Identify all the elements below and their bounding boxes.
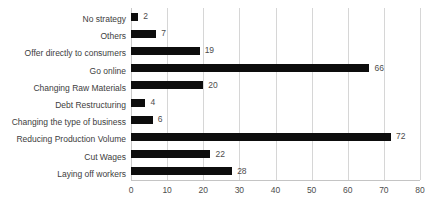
x-tick-label-0: 0 [129,183,134,197]
bar [131,30,156,38]
category-label-row: Changing the type of business [0,111,126,128]
category-label: Others [100,31,126,41]
x-tick-label-40: 40 [271,183,280,197]
bar-row: 19 [131,42,420,59]
category-label-row: Reducing Production Volume [0,128,126,145]
bar-row: 2 [131,8,420,25]
bar [131,133,391,141]
bar-value-label: 72 [396,129,405,143]
x-tick-label-10: 10 [162,183,171,197]
bar-row: 7 [131,25,420,42]
x-tick-label-80: 80 [415,183,424,197]
x-tick-label-20: 20 [199,183,208,197]
x-tick-label-30: 30 [235,183,244,197]
bar [131,150,210,158]
category-label-row: Debt Restructuring [0,94,126,111]
bar-value-label: 28 [237,164,246,178]
bar-value-label: 22 [215,147,224,161]
category-label: Debt Restructuring [55,100,126,110]
category-label: Laying off workers [57,169,126,179]
plot-area: 2719662046722228 [131,8,420,180]
bar-row: 4 [131,94,420,111]
category-axis-labels: No strategyOthersOffer directly to consu… [0,8,126,180]
bar-row: 6 [131,111,420,128]
category-label-row: Offer directly to consumers [0,42,126,59]
bar-row: 20 [131,77,420,94]
category-label: Offer directly to consumers [25,48,126,58]
category-label-row: Go online [0,60,126,77]
bar-row: 66 [131,60,420,77]
gridline-80 [420,8,421,180]
category-label: Reducing Production Volume [16,134,126,144]
category-label: Go online [90,66,126,76]
bar-value-label: 66 [374,61,383,75]
bar [131,116,153,124]
bar [131,47,200,55]
bar [131,64,369,72]
bar [131,167,232,175]
bar-value-label: 20 [208,78,217,92]
bar [131,81,203,89]
category-label-row: Others [0,25,126,42]
category-label-row: No strategy [0,8,126,25]
bar-chart: No strategyOthersOffer directly to consu… [0,0,435,209]
x-axis-line [131,180,420,181]
x-tick-label-60: 60 [343,183,352,197]
bar [131,13,138,21]
x-tick-label-70: 70 [379,183,388,197]
bar-value-label: 6 [158,112,163,126]
category-label: Changing the type of business [12,117,126,127]
x-axis-tick-labels: 01020304050607080 [131,183,420,199]
category-label: Cut Wages [84,152,126,162]
bar-value-label: 2 [143,9,148,23]
category-label-row: Changing Raw Materials [0,77,126,94]
bar-row: 72 [131,128,420,145]
bar-value-label: 19 [205,43,214,57]
category-label-row: Laying off workers [0,163,126,180]
bar-row: 22 [131,146,420,163]
bar-row: 28 [131,163,420,180]
bar [131,99,145,107]
category-label: No strategy [83,14,126,24]
category-label: Changing Raw Materials [33,83,126,93]
bar-value-label: 4 [150,95,155,109]
x-tick-label-50: 50 [307,183,316,197]
category-label-row: Cut Wages [0,146,126,163]
bar-value-label: 7 [161,26,166,40]
